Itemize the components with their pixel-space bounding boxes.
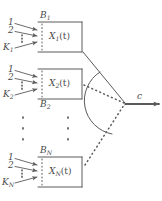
- block-1-port-k-label: K1: [3, 43, 14, 53]
- block-2-name-label: B2: [40, 100, 51, 110]
- block-diagram-figure: B1 X1(t) 1 2 K1 B2 X2(t) 1 2 K2 BN XN(t)…: [0, 0, 162, 201]
- block-2-port-k-label: K2: [3, 90, 14, 100]
- block-n-input-arrows: [15, 159, 37, 184]
- junction-node: [125, 103, 128, 106]
- connector-block-1-solid: [83, 52, 125, 103]
- block-2-signal-label: X2(t): [49, 79, 70, 89]
- block-n-name-label: BN: [40, 146, 52, 156]
- block-1-name-label: B1: [40, 11, 51, 21]
- fan-arc: [84, 72, 112, 134]
- block-n-signal-label: XN(t): [49, 167, 71, 177]
- output-label: c: [137, 92, 142, 101]
- connector-block-n-dotted: [85, 105, 124, 165]
- block-1-signal-label: X1(t): [49, 32, 70, 42]
- block-2-input-arrows: [15, 71, 37, 96]
- block-2-port-2-label: 2: [8, 73, 14, 82]
- block-n-port-2-label: 2: [8, 161, 14, 170]
- block-1-input-arrows: [15, 24, 37, 49]
- block-1-port-2-label: 2: [8, 26, 14, 35]
- block-n-port-k-label: KN: [2, 178, 14, 188]
